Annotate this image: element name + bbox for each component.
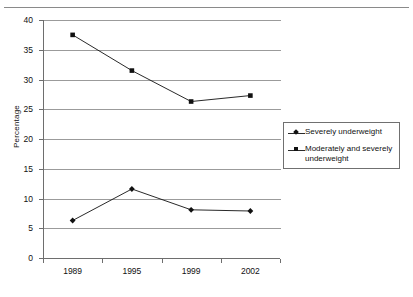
legend-item[interactable]: Severely underweight — [288, 127, 394, 138]
data-point-marker — [188, 207, 194, 213]
legend-diamond-marker-icon — [288, 128, 305, 138]
legend-item[interactable]: Moderately and severely underweight — [288, 144, 394, 163]
series-line — [73, 189, 251, 221]
data-point-marker — [247, 208, 253, 214]
series-line — [73, 35, 251, 102]
chart-figure: Percentage 0510152025303540 198919951999… — [0, 0, 413, 297]
data-point-marker — [130, 68, 135, 73]
data-point-marker — [189, 99, 194, 104]
series-severe — [70, 186, 254, 223]
data-point-marker — [70, 218, 76, 224]
data-point-marker — [129, 186, 135, 192]
data-point-marker — [248, 93, 253, 98]
chart-legend: Severely underweightModerately and sever… — [283, 122, 400, 169]
legend-item-label: Moderately and severely underweight — [305, 144, 394, 163]
legend-square-marker-icon — [288, 145, 305, 155]
legend-item-label: Severely underweight — [305, 127, 382, 137]
series-moderate-severe — [70, 33, 252, 104]
data-point-marker — [70, 33, 75, 38]
